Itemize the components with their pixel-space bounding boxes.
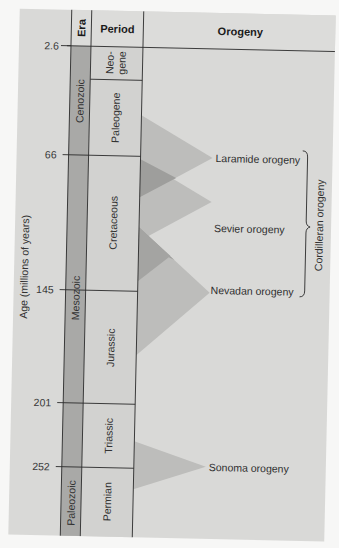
orogeny-laramide: Laramide orogeny: [215, 152, 301, 166]
period-triassic: Triassic: [102, 418, 115, 454]
period-paleogene: Paleogene: [109, 92, 122, 143]
cordilleran-orogeny-label: Cordilleran orogeny: [312, 179, 326, 272]
header-orogeny: Orogeny: [218, 25, 264, 38]
period-cretaceous: Cretaceous: [107, 196, 120, 250]
period-jurassic: Jurassic: [104, 328, 117, 367]
era-mesozoic: Mesozoic: [69, 276, 82, 321]
orogeny-timeline-figure: Era Period Orogeny 2.6 66 145 201 252 Ag…: [0, 0, 339, 548]
tick-145: 145: [36, 283, 54, 295]
tick-201: 201: [34, 396, 52, 408]
header-period: Period: [100, 22, 134, 35]
orogeny-sevier: Sevier orogeny: [214, 222, 286, 236]
era-cenozoic: Cenozoic: [73, 79, 86, 123]
header-era: Era: [75, 18, 87, 37]
era-paleozoic: Paleozoic: [65, 480, 78, 526]
period-neogene-line1: Neo-: [103, 51, 116, 75]
tick-66: 66: [45, 148, 57, 160]
tick-252: 252: [32, 460, 50, 472]
orogeny-nevadan: Nevadan orogeny: [211, 284, 295, 298]
orogeny-sonoma: Sonoma orogeny: [209, 461, 290, 475]
y-axis-label: Age (millions of years): [17, 215, 31, 319]
tick-2-6: 2.6: [44, 39, 59, 51]
period-permian: Permian: [101, 482, 114, 522]
period-neogene-line2: gene: [115, 51, 128, 75]
